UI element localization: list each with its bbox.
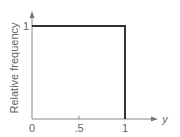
x-tick-label-half: .5 bbox=[74, 122, 83, 134]
y-axis-label: Relative frequency bbox=[8, 22, 20, 114]
x-tick-label-1: 1 bbox=[122, 122, 128, 134]
x-axis-label: y bbox=[161, 113, 169, 125]
y-tick-label-1: 1 bbox=[23, 20, 29, 32]
x-axis-arrow-icon bbox=[151, 117, 158, 122]
uniform-distribution-chart: 1 0 .5 1 y Relative frequency bbox=[0, 0, 180, 137]
x-tick-label-0: 0 bbox=[29, 122, 35, 134]
density-curve bbox=[32, 26, 125, 119]
y-axis-arrow-icon bbox=[30, 11, 35, 18]
